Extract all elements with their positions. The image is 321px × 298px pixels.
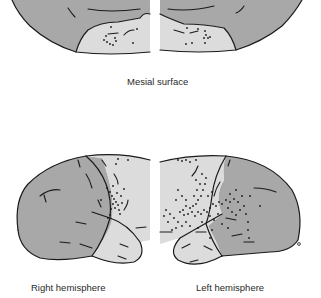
mesial-left-half (160, 0, 302, 52)
mesial-right-half (12, 0, 150, 54)
left-hemisphere-label: Left hemisphere (196, 282, 264, 293)
marker-icon (298, 243, 301, 246)
brain-figure (0, 0, 321, 298)
right-hemisphere-label: Right hemisphere (31, 282, 105, 293)
right-hemisphere-diagram (17, 155, 150, 263)
mesial-surface-label: Mesial surface (127, 76, 188, 87)
left-hemisphere-diagram (160, 156, 300, 265)
